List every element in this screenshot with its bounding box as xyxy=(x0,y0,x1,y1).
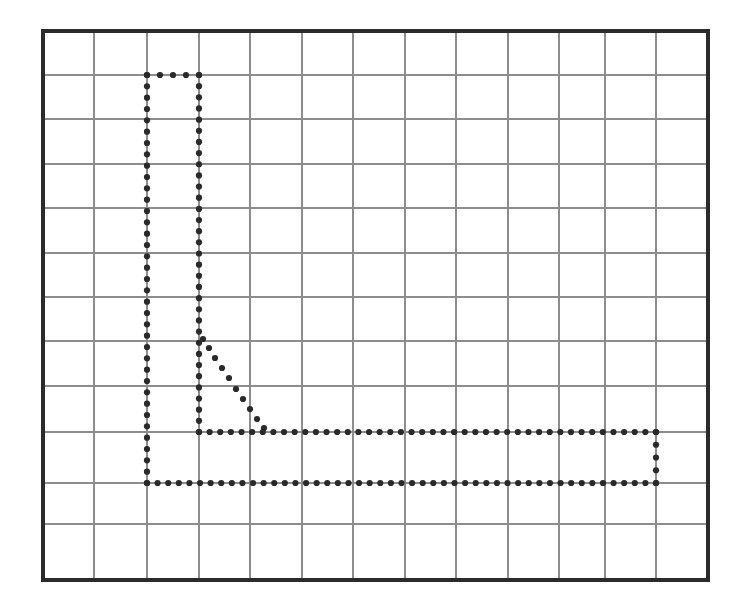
data-dot xyxy=(144,185,150,191)
data-dot xyxy=(196,250,202,256)
data-dot xyxy=(196,105,202,111)
data-dot xyxy=(515,429,521,435)
data-dot xyxy=(196,373,202,379)
data-dot xyxy=(155,480,161,486)
grid-layer xyxy=(43,31,708,580)
data-dot xyxy=(196,139,202,145)
data-dot xyxy=(451,429,457,435)
data-dot xyxy=(144,389,150,395)
data-dot xyxy=(212,355,218,361)
data-dot xyxy=(270,429,276,435)
data-dot xyxy=(144,219,150,225)
data-dot xyxy=(196,418,202,424)
data-dot xyxy=(196,83,202,89)
data-dot xyxy=(398,480,404,486)
data-dot xyxy=(355,429,361,435)
data-dot xyxy=(589,429,595,435)
data-dot xyxy=(240,396,246,402)
data-dot xyxy=(345,480,351,486)
data-dot xyxy=(303,480,309,486)
data-dot xyxy=(144,276,150,282)
data-dot xyxy=(281,429,287,435)
data-dot xyxy=(196,195,202,201)
data-dot xyxy=(292,480,298,486)
data-dot xyxy=(419,429,425,435)
data-dot xyxy=(144,117,150,123)
data-dot xyxy=(515,480,521,486)
data-dot xyxy=(144,299,150,305)
data-dot xyxy=(144,469,150,475)
data-dot xyxy=(557,429,563,435)
data-dot xyxy=(144,106,150,112)
data-dot xyxy=(261,480,267,486)
data-dot xyxy=(186,480,192,486)
data-dot xyxy=(621,480,627,486)
data-dot xyxy=(472,429,478,435)
data-dot xyxy=(610,480,616,486)
data-dot xyxy=(196,306,202,312)
data-dot xyxy=(196,351,202,357)
data-dot xyxy=(653,454,659,460)
data-dot xyxy=(493,429,499,435)
data-dot xyxy=(196,72,202,78)
data-dot xyxy=(377,480,383,486)
data-dot xyxy=(547,429,553,435)
data-dot xyxy=(621,429,627,435)
frame-rect xyxy=(43,31,708,580)
data-dot xyxy=(144,378,150,384)
data-dot xyxy=(144,265,150,271)
data-dot xyxy=(430,429,436,435)
data-dot xyxy=(345,429,351,435)
data-dot xyxy=(196,328,202,334)
data-dots-layer xyxy=(144,72,659,486)
data-dot xyxy=(483,429,489,435)
data-dot xyxy=(313,429,319,435)
data-dot xyxy=(196,228,202,234)
data-dot xyxy=(196,172,202,178)
data-dot xyxy=(239,480,245,486)
data-dot xyxy=(144,401,150,407)
data-dot xyxy=(196,262,202,268)
data-dot xyxy=(632,429,638,435)
data-dot xyxy=(144,83,150,89)
data-dot xyxy=(197,480,203,486)
data-dot xyxy=(144,446,150,452)
data-dot xyxy=(324,480,330,486)
data-dot xyxy=(144,344,150,350)
data-dot xyxy=(271,480,277,486)
figure-canvas xyxy=(0,0,745,616)
data-dot xyxy=(196,150,202,156)
data-dot xyxy=(441,480,447,486)
data-dot xyxy=(208,480,214,486)
data-dot xyxy=(600,480,606,486)
data-dot xyxy=(196,384,202,390)
data-dot xyxy=(144,174,150,180)
data-dot xyxy=(483,480,489,486)
data-dot xyxy=(170,72,176,78)
data-dot xyxy=(144,140,150,146)
data-dot xyxy=(144,129,150,135)
data-dot xyxy=(536,429,542,435)
data-dot xyxy=(206,345,212,351)
data-dot xyxy=(610,429,616,435)
data-dot xyxy=(217,429,223,435)
data-dot xyxy=(144,151,150,157)
data-dot xyxy=(473,480,479,486)
data-dot xyxy=(196,273,202,279)
data-dot xyxy=(254,416,260,422)
data-dot xyxy=(377,429,383,435)
data-dot xyxy=(200,336,206,342)
data-dot xyxy=(144,435,150,441)
data-dot xyxy=(430,480,436,486)
data-dot xyxy=(536,480,542,486)
data-dot xyxy=(547,480,553,486)
data-dot xyxy=(144,287,150,293)
data-dot xyxy=(157,72,163,78)
data-dot xyxy=(144,95,150,101)
data-dot xyxy=(653,442,659,448)
data-dot xyxy=(183,72,189,78)
data-dot xyxy=(176,480,182,486)
data-dot xyxy=(568,429,574,435)
data-dot xyxy=(642,480,648,486)
data-dot xyxy=(229,480,235,486)
